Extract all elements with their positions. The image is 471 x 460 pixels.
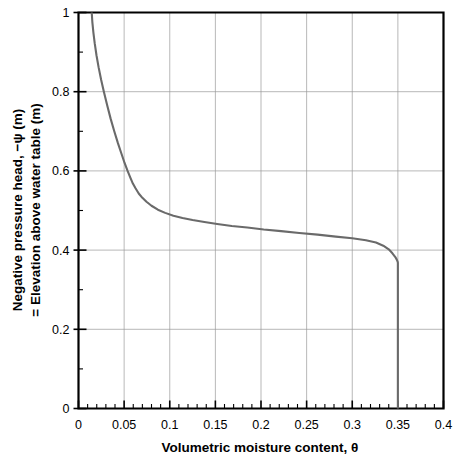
x-tick-label: 0.3 bbox=[344, 418, 361, 432]
x-tick-label: 0.25 bbox=[294, 418, 318, 432]
y-tick-label: 0.4 bbox=[52, 244, 69, 258]
y-axis-title-line2: = Elevation above water table (m) bbox=[28, 103, 43, 316]
y-tick-label: 0.6 bbox=[52, 164, 69, 178]
y-tick-label: 0.8 bbox=[52, 85, 69, 99]
x-tick-label: 0.2 bbox=[252, 418, 269, 432]
y-tick-label: 1 bbox=[63, 6, 70, 20]
y-tick-label: 0.2 bbox=[52, 323, 69, 337]
y-tick-label: 0 bbox=[63, 402, 70, 416]
x-tick-label: 0.05 bbox=[112, 418, 136, 432]
x-axis-title: Volumetric moisture content, θ bbox=[162, 440, 359, 455]
chart-figure: 00.050.10.150.20.250.30.350.4 00.20.40.6… bbox=[0, 0, 471, 460]
x-tick-labels: 00.050.10.150.20.250.30.350.4 bbox=[75, 418, 452, 432]
x-tick-label: 0.35 bbox=[386, 418, 410, 432]
x-tick-label: 0.15 bbox=[203, 418, 227, 432]
x-tick-label: 0 bbox=[75, 418, 82, 432]
chart-background bbox=[0, 0, 471, 460]
y-axis-title-line1: Negative pressure head, −ψ (m) bbox=[10, 109, 25, 312]
x-tick-label: 0.4 bbox=[435, 418, 452, 432]
chart-svg: 00.050.10.150.20.250.30.350.4 00.20.40.6… bbox=[0, 0, 471, 460]
x-tick-label: 0.1 bbox=[161, 418, 178, 432]
